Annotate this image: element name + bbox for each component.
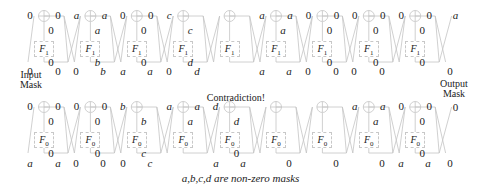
input-mask-line2: Mask	[16, 80, 46, 90]
mid-mask-7: d	[194, 66, 200, 77]
f1-round-2: F1	[80, 41, 100, 57]
f0-right-mask-1: 0	[55, 101, 61, 112]
f1-fin-mask-3: 0	[141, 25, 147, 36]
f1-right-mask-2: a	[102, 10, 108, 21]
f1-left-mask-8: 0	[352, 10, 358, 21]
f1-fin-mask-1: 0	[48, 25, 54, 36]
bottom-mask-2: 0	[73, 158, 79, 169]
f0-fin-mask-3: b	[141, 116, 147, 127]
caption: a,b,c,d are non-zero masks	[0, 172, 481, 184]
bottom-mask-4: 0	[120, 158, 126, 169]
f0-round-1: F0	[34, 132, 54, 148]
f1-fout-mask-4: d	[187, 57, 193, 68]
f0-round-5: F0	[220, 132, 240, 148]
output-mask-label: Output Mask	[436, 79, 472, 99]
f0-left-mask-1: 0	[27, 101, 33, 112]
f1-fout-mask-9: 0	[419, 57, 425, 68]
bottom-mask-19: 0	[447, 158, 453, 169]
f0-left-mask-9: 0	[398, 101, 404, 112]
mid-mask-4: a	[120, 66, 126, 77]
f0-round-9: F0	[405, 132, 425, 148]
f1-round-6: F1	[266, 41, 286, 57]
f1-round-4: F1	[173, 41, 193, 57]
mid-mask-11: a	[286, 66, 292, 77]
bottom-mask-17: a	[398, 158, 404, 169]
bottom-mask-3: 0	[100, 158, 106, 169]
f1-fout-mask-1: 0	[48, 57, 54, 68]
f1-round-9: F1	[405, 41, 425, 57]
f0-round-6: F0	[266, 132, 286, 148]
f1-right-mask-1: 0	[55, 10, 61, 21]
f0-right-mask-9: 0	[426, 101, 432, 112]
mid-mask-5: a	[147, 66, 153, 77]
bottom-mask-9: a	[240, 158, 246, 169]
final-top-mask: a	[453, 10, 459, 21]
input-mask-label: Input Mask	[16, 70, 46, 90]
mid-mask-3: b	[100, 66, 106, 77]
mid-mask-12: 0	[305, 66, 311, 77]
f0-fin-mask-2: 0	[95, 116, 101, 127]
f1-fout-mask-3: 0	[141, 57, 147, 68]
f1-round-5: F1	[220, 41, 240, 57]
f0-left-mask-2: 0	[74, 101, 80, 112]
mid-mask-6: 0	[166, 66, 172, 77]
f1-fin-mask-8: 0	[373, 25, 379, 36]
mid-mask-13: 0	[333, 66, 339, 77]
mid-mask-16: 0	[447, 66, 453, 77]
feistel-diagram: F10000F1aaabF10000F1ccdF1F1aaaF10000F100…	[0, 0, 481, 191]
bottom-mask-10: 0	[286, 158, 292, 169]
f1-right-mask-7: 0	[334, 10, 340, 21]
f1-right-mask-9: 0	[426, 10, 432, 21]
f1-left-mask-9: 0	[398, 10, 404, 21]
f1-left-mask-1: 0	[27, 10, 33, 21]
bottom-mask-13: 0	[333, 158, 339, 169]
f0-fout-mask-5: 0	[234, 148, 240, 159]
f1-left-mask-4: c	[167, 10, 172, 21]
f0-fin-mask-1: 0	[48, 116, 54, 127]
f1-left-mask-2: a	[74, 10, 80, 21]
f0-fin-mask-9: 0	[419, 116, 425, 127]
f0-fin-mask-8: a	[373, 116, 379, 127]
f0-right-mask-2: 0	[102, 101, 108, 112]
caption-text: a,b,c,d are non-zero masks	[182, 172, 300, 184]
f1-fin-mask-9: 0	[419, 25, 425, 36]
f1-round-8: F1	[359, 41, 379, 57]
f0-left-mask-8: a	[352, 101, 358, 112]
mid-mask-2: 0	[73, 66, 79, 77]
f0-fout-mask-1: 0	[48, 148, 54, 159]
f1-fin-mask-2: a	[95, 25, 101, 36]
bottom-mask-0: a	[27, 158, 33, 169]
f1-round-3: F1	[127, 41, 147, 57]
f0-fout-mask-3: c	[141, 148, 146, 159]
f0-fin-mask-5: d	[234, 116, 240, 127]
f0-left-mask-4: a	[166, 101, 172, 112]
f0-fout-mask-9: 0	[419, 148, 425, 159]
f1-round-1: F1	[34, 41, 54, 57]
f0-fin-mask-4: a	[187, 116, 193, 127]
mid-mask-14: 0	[351, 66, 357, 77]
f1-left-mask-7: 0	[306, 10, 312, 21]
bottom-mask-8: a	[213, 158, 219, 169]
f1-left-mask-6: a	[259, 10, 265, 21]
f1-right-mask-8: 0	[380, 10, 386, 21]
f0-round-8: F0	[359, 132, 379, 148]
f0-right-mask-8: a	[380, 101, 386, 112]
f1-right-mask-6: a	[287, 10, 293, 21]
f0-left-mask-3: b	[120, 101, 126, 112]
mid-mask-10: a	[259, 66, 265, 77]
f1-fin-mask-6: a	[280, 25, 286, 36]
bottom-mask-5: c	[148, 158, 153, 169]
f1-round-7: F1	[312, 41, 332, 57]
f0-round-3: F0	[127, 132, 147, 148]
f1-fin-mask-7: 0	[327, 25, 333, 36]
f1-fout-mask-8: 0	[373, 57, 379, 68]
bottom-mask-18: a	[425, 158, 431, 169]
f0-round-7: F0	[312, 132, 332, 148]
f1-left-mask-3: 0	[120, 10, 126, 21]
final-bottom-mask: 0	[453, 102, 459, 113]
f1-fout-mask-7: 0	[327, 57, 333, 68]
f1-right-mask-3: 0	[148, 10, 154, 21]
output-mask-line2: Mask	[436, 89, 472, 99]
bottom-mask-16: 0	[379, 158, 385, 169]
contradiction-label: Contradiction!	[200, 93, 272, 103]
